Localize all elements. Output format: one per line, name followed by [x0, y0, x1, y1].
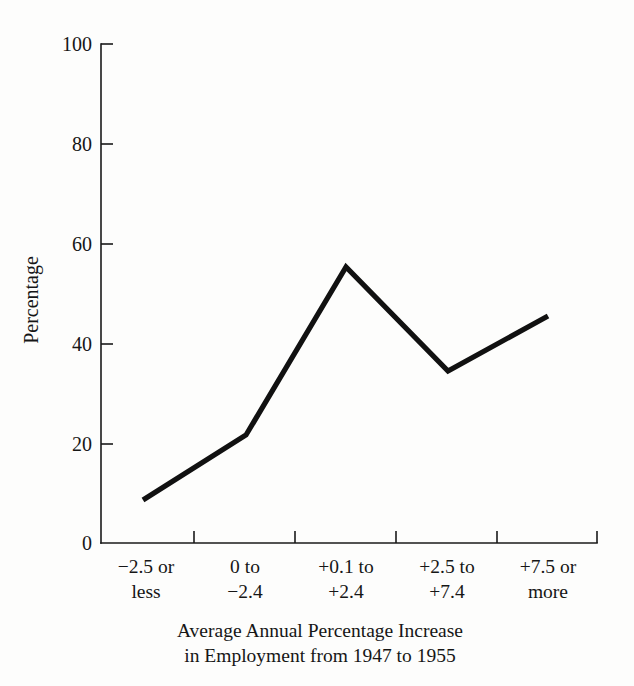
x-tick-label-line1: −2.5 or [118, 556, 175, 577]
x-tick-label-line1: +7.5 or [520, 556, 577, 577]
line-chart: 100 80 60 40 20 0 −2.5 or less 0 to −2.4… [0, 0, 634, 686]
x-axis-title-line2: in Employment from 1947 to 1955 [184, 645, 455, 666]
y-tick-label: 0 [82, 532, 92, 554]
y-tick-label: 100 [62, 33, 92, 55]
y-tick-label: 40 [72, 333, 92, 355]
y-axis-ticks [101, 44, 113, 444]
y-axis-tick-labels: 100 80 60 40 20 0 [62, 33, 92, 554]
x-tick-label-line1: +2.5 to [419, 556, 474, 577]
x-axis-tick-labels: −2.5 or less 0 to −2.4 +0.1 to +2.4 +2.5… [118, 556, 577, 602]
x-tick-label-line2: +2.4 [328, 581, 364, 602]
x-axis-ticks [194, 531, 597, 543]
x-tick-label-line1: +0.1 to [318, 556, 373, 577]
x-tick-label-line2: less [131, 581, 160, 602]
x-tick-label-line2: +7.4 [429, 581, 465, 602]
x-tick-label-line2: more [528, 581, 568, 602]
y-tick-label: 60 [72, 233, 92, 255]
x-axis-title-line1: Average Annual Percentage Increase [177, 620, 463, 641]
x-axis-title: Average Annual Percentage Increase in Em… [177, 620, 463, 666]
y-axis-title: Percentage [20, 256, 43, 344]
x-tick-label-line1: 0 to [230, 556, 260, 577]
y-tick-label: 20 [72, 433, 92, 455]
data-series-line [143, 267, 548, 500]
chart-page: 100 80 60 40 20 0 −2.5 or less 0 to −2.4… [0, 0, 634, 686]
x-tick-label-line2: −2.4 [227, 581, 263, 602]
y-tick-label: 80 [72, 133, 92, 155]
